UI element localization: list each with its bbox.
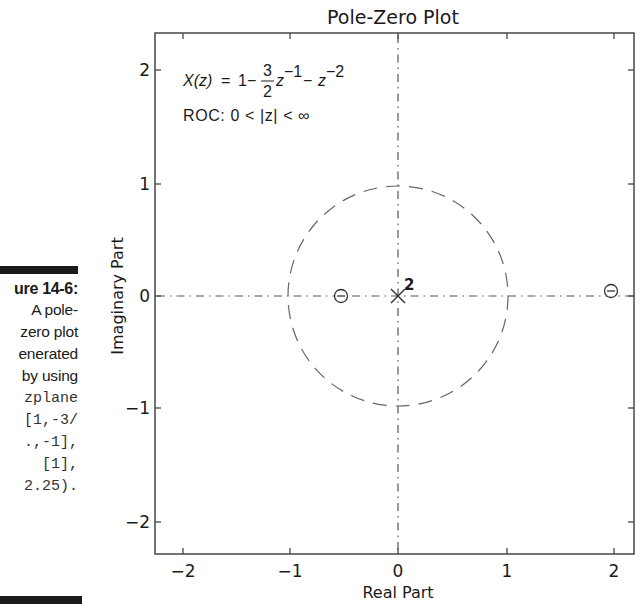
y-tick-label: −2	[125, 512, 150, 532]
eq-minus: −	[303, 72, 312, 89]
eq-one-minus: 1−	[238, 72, 256, 89]
y-tick-label: −1	[125, 398, 150, 418]
x-tick-label: −2	[170, 561, 195, 581]
eq-equals: =	[221, 72, 230, 89]
zero-marker	[335, 290, 348, 303]
y-tick-label: 1	[139, 174, 150, 194]
zero-marker	[605, 285, 618, 298]
eq-z1: z	[275, 72, 284, 89]
eq-frac-den: 2	[263, 83, 272, 100]
chart-title: Pole-Zero Plot	[327, 6, 459, 28]
x-tick-label: −1	[277, 561, 302, 581]
x-tick-label: 2	[609, 561, 620, 581]
x-axis-label: Real Part	[362, 583, 433, 602]
y-axis-label: Imaginary Part	[108, 237, 127, 354]
eq-z2: z	[317, 72, 326, 89]
pole-multiplicity: 2	[404, 276, 414, 294]
x-tick-label: 0	[393, 561, 404, 581]
eq-exp1: −1	[284, 63, 302, 80]
y-tick-label: 0	[139, 286, 150, 306]
y-tick-label: 2	[139, 60, 150, 80]
pole-zero-chart: Pole-Zero Plot −2 −1 0 1 2 2 1 0 −1 −2 R…	[0, 0, 643, 604]
eq-lhs: X(z)	[182, 72, 212, 89]
x-tick-label: 1	[502, 561, 513, 581]
transfer-function-annotation: X(z) = 1− 3 2 z −1 − z −2	[182, 62, 344, 100]
eq-frac-num: 3	[263, 62, 272, 79]
eq-exp2: −2	[326, 63, 344, 80]
roc-annotation: ROC: 0 < |z| < ∞	[183, 107, 310, 124]
